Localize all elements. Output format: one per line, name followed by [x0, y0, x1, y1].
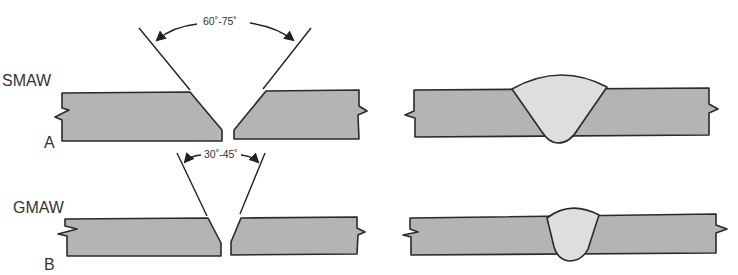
row-b-letter: B — [44, 256, 55, 274]
row-a-letter: A — [44, 134, 55, 152]
weld-joint-diagram — [0, 0, 738, 275]
gmaw-left-plate — [58, 218, 221, 256]
gmaw-right-bevel-guide — [240, 153, 265, 214]
gmaw-process-label: GMAW — [13, 199, 64, 217]
gmaw-completed-weld — [403, 208, 727, 261]
gmaw-joint-prep — [58, 153, 365, 256]
smaw-right-bevel-guide — [263, 28, 311, 89]
smaw-left-bevel-guide — [139, 28, 190, 90]
gmaw-angle-arc-right — [241, 155, 258, 162]
smaw-joint-prep — [55, 23, 367, 141]
smaw-right-plate — [234, 90, 367, 139]
smaw-angle-arc-right — [250, 23, 293, 40]
gmaw-right-plate — [231, 217, 365, 255]
smaw-angle-arc-left — [157, 24, 197, 40]
gmaw-left-bevel-guide — [177, 153, 207, 216]
smaw-left-plate — [55, 92, 222, 141]
gmaw-groove-angle: 30˚-45˚ — [203, 148, 239, 160]
smaw-completed-weld — [405, 75, 718, 143]
smaw-groove-angle: 60˚-75˚ — [202, 15, 238, 27]
smaw-process-label: SMAW — [2, 72, 51, 90]
gmaw-angle-arc-left — [185, 155, 201, 162]
